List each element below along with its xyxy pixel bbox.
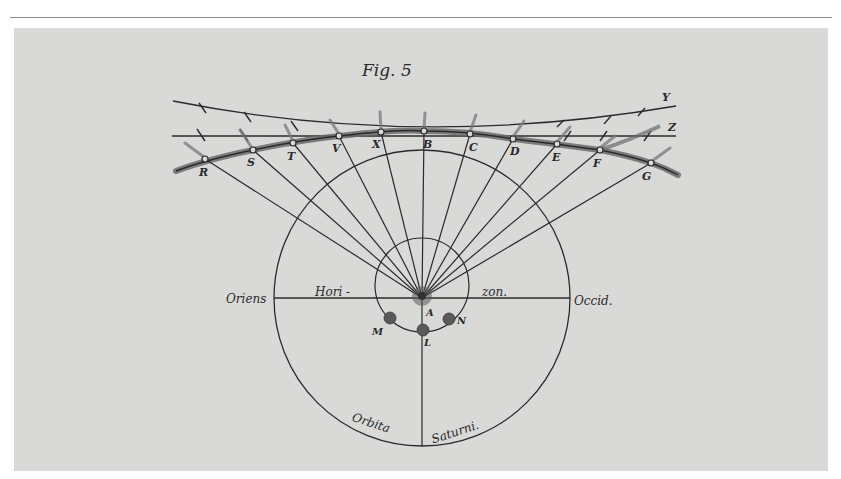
label-r: R (198, 166, 208, 179)
label-n: N (456, 315, 467, 326)
label-f: F (592, 157, 602, 170)
earth-position-markers (384, 312, 455, 336)
label-g: G (642, 170, 651, 183)
label-t: T (287, 150, 296, 163)
label-occid: Occid. (574, 294, 613, 308)
label-c: C (469, 141, 478, 154)
label-m: M (371, 326, 384, 337)
sight-lines (205, 131, 651, 298)
center-point (418, 292, 426, 300)
label-orbita: Orbita (350, 410, 391, 435)
label-l: L (423, 337, 431, 348)
path-branch (600, 126, 660, 150)
label-x: X (371, 138, 381, 151)
label-oriens: Oriens (226, 292, 266, 306)
label-e: E (551, 151, 561, 164)
figure-title: Fig. 5 (361, 60, 412, 80)
label-b: B (422, 138, 432, 151)
label-y: Y (662, 91, 671, 104)
saturn-retrograde-diagram: Fig. 5 (0, 0, 841, 479)
label-zon: zon. (481, 285, 507, 299)
label-a: A (425, 307, 434, 318)
label-v: V (332, 142, 342, 155)
label-hori: Hori - (314, 285, 350, 299)
label-d: D (509, 145, 520, 158)
path-point-labels: R S T V X B C D E F G Y Z (198, 91, 677, 183)
label-s: S (247, 156, 255, 169)
label-z: Z (667, 121, 677, 134)
